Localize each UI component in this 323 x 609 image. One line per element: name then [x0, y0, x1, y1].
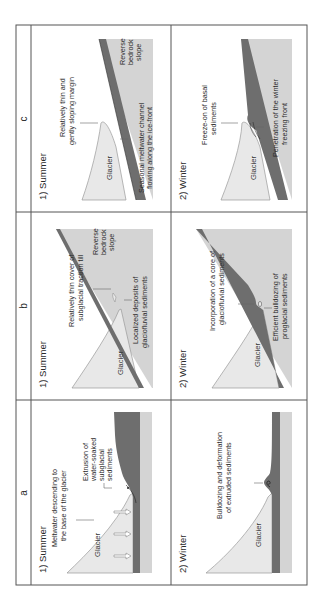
glacial-process-diagram: a b c 1) Summer Meltwater descending to …	[0, 0, 323, 609]
season-label: 1) Summer	[37, 153, 48, 200]
annotation: gently sloping margin	[67, 77, 76, 145]
annotation: flowing along the ice-front	[145, 107, 154, 189]
column-header-c: c	[18, 117, 29, 122]
ground	[140, 412, 152, 573]
season-label: 2) Winter	[177, 534, 188, 573]
annotation: slope	[107, 234, 116, 251]
glacier-label: Glacier	[254, 522, 263, 547]
glacier-label: Glacier	[249, 155, 258, 180]
glacier-label: Glacier	[253, 342, 262, 367]
annotation: slope	[134, 44, 143, 61]
annotation: Localized deposits of	[131, 277, 140, 344]
column-header-b: b	[18, 303, 29, 309]
season-label: 1) Summer	[37, 526, 48, 573]
annotation: Efficient bulldozing of	[271, 273, 280, 341]
glaciofluvial-core	[258, 301, 261, 306]
annotation: Freeze-on of basal	[200, 85, 209, 145]
annotation: the base of the glacier	[59, 470, 68, 541]
glacier-shape	[82, 122, 126, 200]
annotation: Bulldozing and deformation	[215, 432, 224, 519]
panel-c-winter: 2) Winter Freeze-on of basal sediments P…	[177, 39, 292, 200]
ground	[280, 412, 292, 573]
glacier-label: Glacier	[116, 350, 125, 375]
season-label: 2) Winter	[177, 161, 188, 200]
annotation: proglacial sediments	[280, 273, 289, 339]
annotation: of extruded sediments	[224, 442, 233, 513]
leader-line	[104, 483, 112, 488]
panel-a-winter: 2) Winter Bulldozing and deformation of …	[177, 412, 292, 573]
annotation: Incorporation of a core of	[208, 251, 217, 331]
sediment-dot	[127, 487, 129, 489]
annotation: Meltwater descending to	[50, 469, 59, 547]
annotation: glaciofluvial sediments	[140, 276, 149, 348]
glacier-label: Glacier	[105, 155, 114, 180]
season-label: 1) Summer	[37, 341, 48, 388]
annotation: Relatively thin and	[58, 78, 67, 137]
panel-a-summer: 1) Summer Meltwater descending to the ba…	[37, 412, 152, 573]
annotation: freezing front	[280, 103, 289, 145]
panel-b-winter: 2) Winter Incorporation of a core of gla…	[177, 229, 292, 388]
column-header-a: a	[18, 490, 29, 496]
annotation: Relatively thin cover of	[67, 255, 76, 327]
annotation: glaciofluvial sediments	[217, 253, 226, 325]
panel-c-summer: 1) Summer Relatively thin and gently slo…	[37, 38, 154, 200]
glacier-label: Glacier	[93, 532, 102, 557]
season-label: 2) Winter	[177, 349, 188, 388]
annotation: subglacial traction till	[76, 254, 85, 321]
annotation: sediments	[105, 448, 114, 481]
annotation: sediments	[209, 102, 218, 135]
annotation: Penetration of the winter	[271, 78, 280, 157]
panel-b-summer: 1) Summer Relatively thin cover of subgl…	[37, 228, 153, 388]
